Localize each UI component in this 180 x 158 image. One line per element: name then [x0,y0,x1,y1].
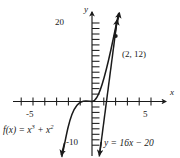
x-axis-name-label: x [170,88,174,97]
cubic-curve-series [61,13,119,157]
x-tick-label-5: 5 [143,110,148,119]
point-coordinate-label: (2, 12) [122,50,146,59]
tangent-line-arrow-up [115,20,117,32]
math-graph-figure: 20 -10 -5 5 y x f(x) = x3 + x2 y = 16x −… [0,0,180,158]
point-marker-2-12 [114,34,118,38]
y-tick-label-neg10: -10 [66,138,78,147]
function-exponent-2: 2 [50,123,53,130]
y-tick-label-20: 20 [55,18,64,27]
x-tick-label-neg5: -5 [26,110,34,119]
cubic-curve-path [62,14,119,157]
line-equation-label: y = 16x − 20 [104,139,154,149]
function-equation-part2: + x [35,125,50,135]
function-equation-label: f(x) = x3 + x2 [3,126,53,136]
y-axis [92,12,100,156]
y-axis-ticks [92,23,100,145]
tangent-line-series [99,20,117,157]
tangent-line-arrow-down [99,142,101,155]
y-axis-name-label: y [84,5,88,14]
tangent-line-path [99,21,117,157]
function-equation-part1: f(x) = x [3,125,32,135]
